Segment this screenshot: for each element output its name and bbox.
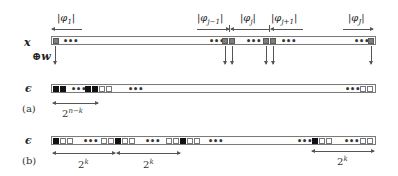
span-b3-arrow: [312, 151, 374, 152]
ellipsis: •••: [128, 86, 143, 94]
x-cell: [263, 38, 269, 44]
down-arrow: [273, 46, 274, 64]
ellipsis: •••: [297, 138, 312, 146]
span-b2-label: 2k: [143, 158, 154, 170]
down-arrow: [232, 46, 233, 64]
down-arrow: [266, 46, 267, 64]
eps-cell: [115, 138, 121, 144]
phi-J-label: |φJ|: [348, 12, 365, 26]
panel-a-label: (a): [22, 103, 36, 114]
eps-cell: [319, 138, 325, 144]
eps-cell: [129, 138, 135, 144]
eps-cell: [367, 138, 373, 144]
x-row-label: x: [24, 36, 31, 49]
x-cell: [270, 38, 276, 44]
phi-j-1-arrow: [197, 29, 229, 30]
span-b1-arrow: [53, 153, 115, 154]
phi-j-1-label: |φj−1|: [197, 12, 223, 26]
ellipsis: •••: [145, 138, 160, 146]
eps-cell: [194, 138, 200, 144]
eps-cell: [106, 86, 112, 92]
x-cell: [229, 38, 235, 44]
eps-cell: [53, 138, 59, 144]
span-a-label: 2n−k: [62, 107, 83, 119]
phi-1-label: |φ1|: [57, 12, 75, 26]
panel-b-label: (b): [22, 155, 36, 166]
phi-1-arrow: [52, 29, 82, 30]
ellipsis: •••: [246, 38, 261, 46]
ellipsis: •••: [345, 86, 360, 94]
phi-j-plus-1-label: |φj+1|: [271, 12, 297, 26]
eps-cell: [67, 138, 73, 144]
xor-w-label: ⊕w: [32, 50, 51, 63]
eps-cell: [180, 138, 186, 144]
ellipsis: •••: [83, 138, 98, 146]
phi-j-plus-1-arrow: [271, 29, 303, 30]
x-cell: [368, 38, 374, 44]
eps-cell: [326, 138, 332, 144]
eps-cell: [360, 138, 366, 144]
eps-cell: [312, 138, 318, 144]
eps-cell: [122, 138, 128, 144]
span-b3-label: 2k: [337, 155, 348, 167]
x-cell: [222, 38, 228, 44]
span-b2-arrow: [117, 153, 180, 154]
phi-J-arrow: [343, 29, 373, 30]
eps-cell: [367, 86, 373, 92]
x-cell: [53, 38, 59, 44]
eps-cell: [187, 138, 193, 144]
eps-cell: [360, 86, 366, 92]
phi-j-arrow: [231, 29, 269, 30]
eps-a-row-label: ϵ: [25, 82, 32, 95]
eps-cell: [85, 86, 91, 92]
eps-cell: [92, 86, 98, 92]
ellipsis: •••: [63, 38, 78, 46]
down-arrow: [55, 46, 56, 64]
eps-cell: [60, 86, 66, 92]
eps-cell: [101, 138, 107, 144]
span-b1-label: 2k: [78, 158, 89, 170]
ellipsis: •••: [281, 38, 296, 46]
eps-cell: [60, 138, 66, 144]
eps-cell: [173, 138, 179, 144]
eps-cell: [53, 86, 59, 92]
down-arrow: [371, 46, 372, 64]
span-a-arrow: [53, 103, 98, 104]
phi-j-label: |φj|: [240, 12, 256, 26]
down-arrow: [225, 46, 226, 64]
ellipsis: •••: [344, 138, 359, 146]
eps-b-row-label: ϵ: [25, 134, 32, 147]
ellipsis: •••: [208, 138, 223, 146]
eps-cell: [99, 86, 105, 92]
eps-cell: [108, 138, 114, 144]
eps-cell: [166, 138, 172, 144]
